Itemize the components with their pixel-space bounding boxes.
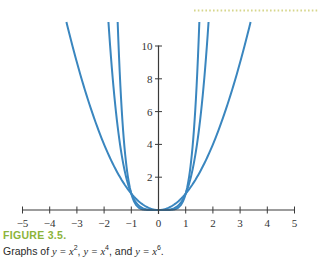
x-tick-label: −2 (98, 217, 110, 229)
y-tick-label: 10 (142, 40, 154, 52)
x-tick-label: 1 (183, 217, 189, 229)
y-tick-label: 4 (147, 138, 153, 150)
x-tick-label: 5 (292, 217, 298, 229)
x-tick-label: 0 (156, 217, 162, 229)
caption-suffix: . (161, 245, 164, 257)
figure-caption: FIGURE 3.5. Graphs of y = x2, y = x4, an… (3, 229, 164, 258)
sep-2: , and (109, 245, 135, 257)
eq-2: y = x (83, 246, 105, 257)
y-tick-label: 6 (147, 106, 153, 118)
axes: −5−4−3−2−1012345246810 (17, 40, 298, 229)
x-tick-label: −3 (71, 217, 83, 229)
eq-1: y = x (52, 246, 74, 257)
x-tick-label: −4 (44, 217, 56, 229)
x-tick-label: −1 (125, 217, 137, 229)
x-tick-label: −5 (17, 217, 29, 229)
x-tick-label: 3 (237, 217, 243, 229)
caption-prefix: Graphs of (3, 245, 52, 257)
x-tick-label: 2 (210, 217, 216, 229)
figure-description: Graphs of y = x2, y = x4, and y = x6. (3, 241, 164, 258)
function-graph: −5−4−3−2−1012345246810 (0, 0, 319, 229)
y-tick-label: 8 (147, 73, 153, 85)
figure-label: FIGURE 3.5. (3, 229, 164, 241)
x-tick-label: 4 (265, 217, 271, 229)
eq-3: y = x (135, 246, 157, 257)
y-tick-label: 2 (147, 171, 153, 183)
